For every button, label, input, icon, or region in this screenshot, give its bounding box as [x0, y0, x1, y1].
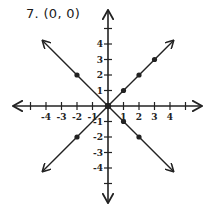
x-tick-label: -4: [41, 112, 51, 122]
y-tick-label: -1: [93, 117, 103, 127]
coordinate-plane: -4-3-2-112344321-1-2-3-4: [0, 0, 210, 212]
x-tick-label: 2: [136, 112, 142, 122]
y-tick-label: 2: [97, 70, 103, 80]
x-tick-label: -3: [57, 112, 67, 122]
intersection-point: [105, 103, 111, 109]
point: [136, 72, 141, 77]
point: [121, 88, 126, 93]
y-tick-label: -4: [93, 163, 103, 173]
y-tick-label: 4: [97, 39, 103, 49]
x-tick-label: 3: [151, 112, 157, 122]
x-tick-label: 1: [120, 112, 126, 122]
x-tick-label: 4: [167, 112, 173, 122]
point: [152, 57, 157, 62]
x-tick-label: -2: [72, 112, 82, 122]
y-tick-label: 3: [97, 55, 103, 65]
point: [74, 134, 79, 139]
y-tick-label: 1: [97, 86, 103, 96]
y-tick-label: -3: [93, 148, 103, 158]
y-tick-label: -2: [93, 132, 103, 142]
point: [74, 72, 79, 77]
point: [136, 134, 141, 139]
